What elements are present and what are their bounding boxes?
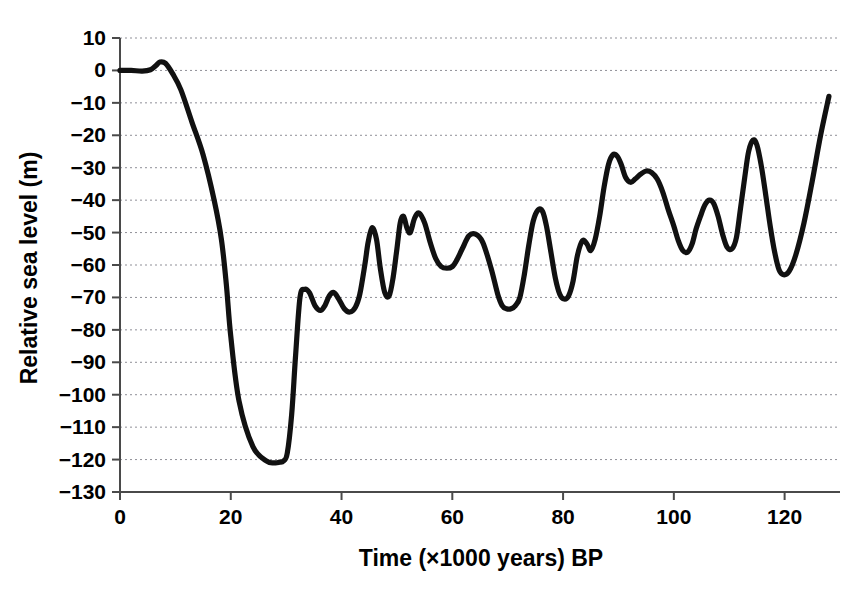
y-tick-label: −20: [70, 123, 106, 146]
y-tick-label: −100: [59, 383, 106, 406]
y-tick-label: −120: [59, 448, 106, 471]
y-tick-label: −40: [70, 188, 106, 211]
x-tick-label: 60: [441, 505, 464, 528]
x-axis-title: Time (×1000 years) BP: [359, 545, 603, 571]
x-tick-label: 0: [114, 505, 126, 528]
x-tick-labels: 020406080100120: [114, 505, 802, 528]
y-tick-label: 10: [83, 26, 106, 49]
y-tick-label: −60: [70, 253, 106, 276]
y-tick-label: −90: [70, 350, 106, 373]
y-tick-label: −10: [70, 91, 106, 114]
y-tick-label: −130: [59, 480, 106, 503]
x-tick-label: 80: [551, 505, 574, 528]
y-tick-label: 0: [94, 58, 106, 81]
y-tick-labels: 100−10−20−30−40−50−60−70−80−90−100−110−1…: [59, 26, 106, 503]
y-tick-label: −30: [70, 156, 106, 179]
sea-level-line-chart: 100−10−20−30−40−50−60−70−80−90−100−110−1…: [0, 0, 856, 595]
y-tick-label: −80: [70, 318, 106, 341]
y-tick-label: −50: [70, 221, 106, 244]
x-tick-label: 40: [330, 505, 353, 528]
y-tick-label: −70: [70, 285, 106, 308]
sea-level-curve: [120, 62, 829, 463]
data-series-curve: [120, 62, 829, 463]
x-tick-label: 100: [656, 505, 691, 528]
x-tick-label: 20: [219, 505, 242, 528]
x-tick-label: 120: [767, 505, 802, 528]
y-axis-title: Relative sea level (m): [16, 152, 42, 385]
chart-figure: 100−10−20−30−40−50−60−70−80−90−100−110−1…: [0, 0, 856, 595]
y-tick-label: −110: [60, 415, 106, 438]
